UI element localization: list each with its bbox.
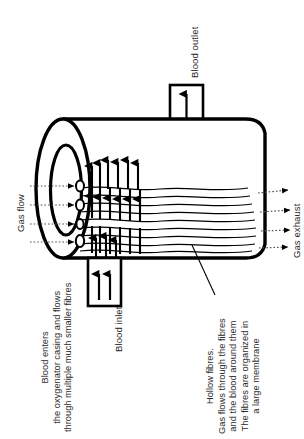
blood-path-annotation: Blood enters the oxygenator casing and f…: [40, 283, 75, 432]
hollow-fibres-line-4: The fibres are organized in: [240, 318, 252, 434]
blood-path-line-1: Blood enters: [40, 283, 52, 432]
hollow-fibres-annotation: Hollow fibres. Gas flows through the fib…: [205, 318, 263, 434]
gas-exhaust-label: Gas exhaust: [292, 204, 302, 258]
blood-inlet-pipe: [88, 258, 121, 306]
blood-outlet-label: Blood outlet: [190, 27, 200, 78]
oxygenator-diagram: Blood outlet Gas flow Gas exhaust Blood …: [0, 0, 304, 439]
blood-inlet-label: Blood inlet: [114, 307, 124, 352]
blood-path-line-3: through multiple much smaller fibres: [63, 283, 75, 432]
gas-flow-label: Gas flow: [16, 194, 26, 232]
hollow-fibres-line-3: and the blood around them: [228, 318, 240, 434]
hollow-fibres-line-5: a large membrane: [251, 318, 263, 434]
hollow-fibres-line-2: Gas flows through the fibres: [217, 318, 229, 434]
blood-path-line-2: the oxygenator casing and flows: [52, 283, 64, 432]
hollow-fibres-line-1: Hollow fibres.: [205, 318, 217, 434]
